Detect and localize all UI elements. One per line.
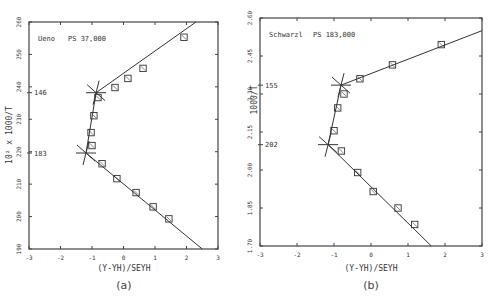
square-marker-icon: [140, 65, 146, 71]
data-points: [331, 41, 445, 227]
y-tick-label: 200: [15, 211, 22, 222]
x-axis: -3-2-10123: [25, 22, 220, 261]
x-tick-label: 2: [185, 254, 189, 261]
square-marker-icon: [125, 75, 131, 81]
plot-frame: [29, 22, 218, 249]
y-tick-label: 260: [15, 16, 22, 27]
x-axis: -3-2-10123: [256, 18, 484, 258]
x-tick-label: -3: [256, 251, 264, 258]
x-tick-label: 0: [369, 251, 373, 258]
transition-marker: 155: [258, 73, 351, 97]
panel-caption: (b): [363, 279, 379, 292]
fit-line: [341, 31, 482, 85]
x-tick-label: -2: [57, 254, 65, 261]
x-axis-label: (Y-YH)/SEYH: [98, 264, 151, 273]
fit-lines: [328, 31, 482, 246]
square-marker-icon: [89, 142, 95, 148]
chart-panel-b: -3-2-101231.701.852.002.152.302.452.60(Y…: [246, 10, 484, 292]
y-tick-label: 240: [15, 81, 22, 92]
x-tick-label: -1: [88, 254, 96, 261]
x-tick-label: 3: [216, 254, 220, 261]
fit-line: [86, 153, 202, 249]
panel-annotation-ps: PS 183,000: [313, 31, 355, 39]
plot-frame: [260, 18, 482, 246]
fit-lines: [86, 22, 202, 249]
transition-label: 183: [34, 150, 47, 158]
y-tick-label: 2.45: [246, 48, 253, 63]
x-tick-label: 1: [406, 251, 410, 258]
y-tick-label: 250: [15, 49, 22, 60]
fit-line: [86, 93, 96, 153]
square-marker-icon: [354, 169, 360, 175]
transition-marker: 202: [258, 133, 338, 157]
y-tick-label: 190: [15, 243, 22, 254]
x-tick-label: 1: [153, 254, 157, 261]
y-axis-label: 10² x 1000/T: [5, 106, 14, 164]
transition-label: 155: [265, 82, 278, 90]
x-tick-label: 0: [122, 254, 126, 261]
x-tick-label: -1: [330, 251, 338, 258]
y-axis: 190200210220230240250260: [15, 16, 218, 254]
x-tick-label: -2: [293, 251, 301, 258]
x-tick-label: 3: [480, 251, 484, 258]
y-tick-label: 2.15: [246, 124, 253, 139]
y-tick-label: 220: [15, 146, 22, 157]
y-tick-label: 230: [15, 113, 22, 124]
x-axis-label: (Y-YH)/SEYH: [345, 264, 398, 273]
fit-line: [96, 22, 196, 93]
y-tick-label: 1.70: [246, 238, 253, 253]
square-marker-icon: [181, 34, 187, 40]
square-marker-icon: [338, 148, 344, 154]
panel-annotation-name: Ueno: [38, 35, 55, 43]
y-axis: 1.701.852.002.152.302.452.60: [246, 10, 482, 253]
chart-panel-a: -3-2-10123190200210220230240250260(Y-YH)…: [5, 16, 220, 292]
y-tick-label: 2.00: [246, 162, 253, 177]
square-marker-icon: [411, 221, 417, 227]
x-tick-label: -3: [25, 254, 33, 261]
panel-annotation-name: Schwarzl: [269, 31, 303, 39]
x-tick-label: 2: [443, 251, 447, 258]
square-marker-icon: [112, 84, 118, 90]
transition-label: 146: [34, 89, 47, 97]
panel-caption: (a): [116, 279, 131, 292]
y-tick-label: 2.60: [246, 10, 253, 25]
transition-marker: 183: [27, 141, 96, 165]
y-tick-label: 1.85: [246, 200, 253, 215]
y-tick-label: 210: [15, 178, 22, 189]
square-marker-icon: [341, 91, 347, 97]
transition-marker: 146: [27, 81, 106, 105]
fit-line: [328, 145, 431, 246]
panel-annotation-ps: PS 37,000: [68, 35, 106, 43]
y-axis-label: 1000/T: [250, 85, 259, 114]
figure: -3-2-10123190200210220230240250260(Y-YH)…: [0, 0, 490, 297]
transition-label: 202: [265, 141, 278, 149]
square-marker-icon: [395, 205, 401, 211]
data-points: [88, 34, 187, 222]
